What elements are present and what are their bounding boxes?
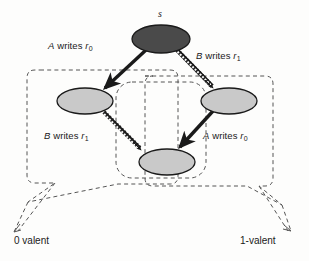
edge-label-left-to-bottom: B writes r1 xyxy=(44,130,89,141)
edge-label-actor: B xyxy=(196,50,202,61)
node-left[interactable] xyxy=(57,88,113,114)
edge-label-subscript: 0 xyxy=(89,45,93,52)
edge-right-to-bottom xyxy=(180,111,213,147)
edge-label-verb: writes xyxy=(205,50,230,61)
edge-label-verb: writes xyxy=(57,40,82,51)
edge-label-subscript: 1 xyxy=(237,55,241,62)
edge-label-subscript: 0 xyxy=(244,135,248,142)
diagram-canvas: s A writes r0 B writes r1 B writes r1 A … xyxy=(0,0,309,261)
node-right[interactable] xyxy=(201,88,257,114)
callout-label-zero-valent: 0 valent xyxy=(14,235,49,246)
edge-label-subscript: 1 xyxy=(85,135,89,142)
edge-label-actor: A xyxy=(48,40,54,51)
edge-label-right-to-bottom: A writes r0 xyxy=(203,130,248,141)
edge-left-to-bottom xyxy=(104,112,141,150)
node-label-s: s xyxy=(158,8,162,19)
edge-label-actor: B xyxy=(44,130,50,141)
edge-label-verb: writes xyxy=(53,130,78,141)
edge-label-actor: A xyxy=(203,130,209,141)
edge-label-verb: writes xyxy=(212,130,237,141)
edge-label-s-to-left: A writes r0 xyxy=(48,40,93,51)
callout-label-one-valent: 1-valent xyxy=(240,235,276,246)
edge-label-s-to-right: B writes r1 xyxy=(196,50,241,61)
node-s[interactable] xyxy=(132,25,190,53)
node-bottom[interactable] xyxy=(139,149,195,175)
